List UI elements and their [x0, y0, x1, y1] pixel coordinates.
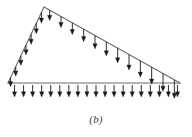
base-load: [12, 85, 179, 97]
hypotenuse-load-arrow-6: [115, 48, 119, 63]
base-load-arrow-11: [112, 85, 116, 97]
arrow-head: [112, 92, 116, 97]
arrow-head: [58, 92, 62, 97]
hypotenuse-load: [47, 10, 176, 98]
base-load-arrow-1: [21, 85, 25, 97]
base-load-arrow-12: [121, 85, 125, 97]
arrow-head: [12, 92, 16, 97]
hypotenuse-load-arrow-8: [138, 61, 142, 77]
hypotenuse-load-arrow-10: [161, 74, 165, 92]
base-load-arrow-13: [130, 85, 134, 97]
base-load-arrow-6: [67, 85, 71, 97]
arrow-head: [115, 58, 119, 63]
hypotenuse-load-arrow-1: [59, 17, 63, 28]
left-slope-load-arrow-3: [24, 45, 28, 55]
hypotenuse-load-arrow-2: [70, 23, 74, 35]
arrow-head: [139, 92, 143, 97]
arrow-head: [127, 65, 131, 70]
arrow-head: [121, 92, 125, 97]
base-load-arrow-9: [94, 85, 98, 97]
arrow-head: [93, 44, 97, 49]
arrow-head: [166, 92, 170, 97]
hypotenuse-load-arrow-0: [47, 10, 51, 20]
base-load-arrow-0: [12, 85, 16, 97]
arrow-head: [47, 15, 51, 20]
base-load-arrow-8: [85, 85, 89, 97]
base-load-arrow-7: [76, 85, 80, 97]
base-load-arrow-15: [148, 85, 152, 97]
arrow-head: [8, 82, 12, 87]
left-slope-load: [8, 12, 43, 86]
arrow-head: [14, 71, 18, 76]
arrow-head: [103, 92, 107, 97]
base-load-arrow-18: [175, 85, 179, 97]
arrow-head: [148, 92, 152, 97]
arrow-head: [161, 86, 165, 91]
base-load-arrow-3: [39, 85, 43, 97]
left-slope-load-arrow-2: [19, 56, 23, 66]
base-load-arrow-10: [103, 85, 107, 97]
arrow-head: [76, 92, 80, 97]
arrow-head: [30, 92, 34, 97]
arrow-head: [49, 92, 53, 97]
base-load-arrow-17: [166, 85, 170, 97]
arrow-head: [157, 92, 161, 97]
arrow-head: [67, 92, 71, 97]
edge-hypotenuse: [44, 7, 180, 83]
arrow-head: [29, 39, 33, 44]
arrow-head: [104, 51, 108, 56]
base-load-arrow-4: [49, 85, 53, 97]
arrow-head: [70, 30, 74, 35]
distributed-load-arrows: [8, 10, 179, 98]
arrow-head: [21, 92, 25, 97]
arrow-head: [172, 93, 176, 98]
arrow-head: [24, 50, 28, 55]
left-slope-load-arrow-4: [29, 34, 33, 44]
left-slope-load-arrow-0: [8, 78, 12, 87]
arrow-head: [85, 92, 89, 97]
hypotenuse-load-arrow-7: [127, 55, 131, 71]
hypotenuse-load-arrow-4: [93, 36, 97, 49]
left-slope-load-arrow-5: [34, 23, 38, 34]
base-load-arrow-2: [30, 85, 34, 97]
arrow-head: [138, 72, 142, 77]
arrow-head: [19, 60, 23, 65]
arrow-head: [39, 92, 43, 97]
left-slope-load-arrow-6: [39, 12, 43, 23]
arrow-head: [81, 37, 85, 42]
arrow-head: [94, 92, 98, 97]
figure-container: (b): [0, 0, 192, 137]
hypotenuse-load-arrow-3: [81, 29, 85, 42]
figure-caption: (b): [0, 113, 192, 125]
arrow-head: [59, 22, 63, 27]
left-slope-load-arrow-1: [14, 67, 18, 76]
arrow-head: [130, 92, 134, 97]
base-load-arrow-5: [58, 85, 62, 97]
arrow-head: [39, 18, 43, 23]
arrow-head: [34, 29, 38, 34]
hypotenuse-load-arrow-5: [104, 42, 108, 56]
hypotenuse-load-arrow-9: [149, 67, 153, 84]
base-load-arrow-14: [139, 85, 143, 97]
